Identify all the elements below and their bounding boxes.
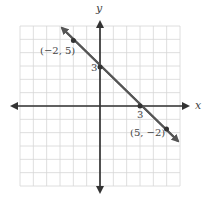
point-b-label: (5, −2)	[130, 127, 165, 138]
point-a-label: (−2, 5)	[40, 45, 75, 56]
point-neg2-5	[71, 38, 76, 43]
point-x-intercept	[138, 104, 143, 109]
y-intercept-label: 3	[91, 62, 97, 73]
coordinate-plane: x y (−2, 5) 3 3 (5, −2)	[0, 0, 207, 203]
x-intercept-label: 3	[137, 109, 143, 120]
data-line-back	[62, 28, 178, 141]
x-axis-label: x	[195, 99, 202, 112]
y-axis-label: y	[95, 2, 103, 15]
point-y-intercept	[98, 65, 103, 70]
